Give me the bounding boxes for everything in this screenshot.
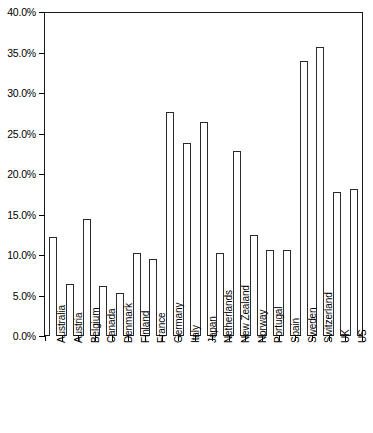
x-axis-category-label: Australia (57, 305, 67, 343)
y-axis-tick-mark (39, 296, 45, 297)
x-label-slot: Austria (62, 343, 79, 433)
x-label-slot: Italy (179, 343, 196, 433)
x-axis-category-label: Switzerland (324, 292, 334, 343)
y-axis-tick-mark (39, 12, 45, 13)
y-axis-labels: 0.0%5.0%10.0%15.0%20.0%25.0%30.0%35.0%40… (0, 0, 44, 433)
y-axis-tick-label: 20.0% (7, 169, 36, 180)
bar-slot (78, 13, 95, 336)
bar (333, 192, 341, 336)
y-axis-tick-mark (39, 215, 45, 216)
x-axis-category-label: Norway (258, 310, 268, 343)
x-label-slot: New Zealand (229, 343, 246, 433)
y-axis-tick-mark (39, 93, 45, 94)
x-axis-category-label: Denmark (124, 303, 134, 343)
bar-slot (312, 13, 329, 336)
bar-slot (212, 13, 229, 336)
x-axis-category-label: New Zealand (241, 285, 251, 343)
bar-slot (162, 13, 179, 336)
y-axis-tick-label: 25.0% (7, 128, 36, 139)
x-axis-category-label: France (157, 312, 167, 343)
y-axis-tick-label: 35.0% (7, 47, 36, 58)
x-axis-category-label: Japan (208, 316, 218, 343)
bar-slot (295, 13, 312, 336)
y-axis-tick-mark (39, 255, 45, 256)
bar (200, 122, 208, 336)
y-axis-tick-label: 5.0% (13, 290, 36, 301)
x-label-slot: Australia (45, 343, 62, 433)
x-axis-category-label: US (358, 329, 368, 343)
bar (183, 143, 191, 336)
bar-slot (262, 13, 279, 336)
x-axis-category-label: Canada (107, 309, 117, 343)
x-axis-category-label: UK (341, 329, 351, 343)
x-axis-tick-mark (45, 336, 46, 341)
y-axis-tick-mark (39, 336, 45, 337)
bar-slot (345, 13, 362, 336)
x-axis-labels: AustraliaAustriaBelgiumCanadaDenmarkFinl… (45, 343, 362, 433)
x-label-slot: Denmark (112, 343, 129, 433)
x-label-slot: Germany (162, 343, 179, 433)
x-label-slot: Canada (95, 343, 112, 433)
y-axis-tick-mark (39, 134, 45, 135)
x-axis-category-label: Belgium (91, 308, 101, 343)
y-axis-tick-mark (39, 53, 45, 54)
x-axis-category-label: Austria (74, 313, 84, 343)
bar-slot (329, 13, 346, 336)
x-label-slot: Sweden (295, 343, 312, 433)
bar-slot (95, 13, 112, 336)
y-axis-tick-label: 15.0% (7, 209, 36, 220)
x-axis-category-label: Netherlands (224, 290, 234, 343)
y-axis-tick-mark (39, 174, 45, 175)
y-axis-tick-label: 10.0% (7, 250, 36, 261)
y-axis-tick-label: 40.0% (7, 7, 36, 18)
x-label-slot: Japan (195, 343, 212, 433)
x-label-slot: Spain (279, 343, 296, 433)
bar-slot (179, 13, 196, 336)
x-axis-category-label: Italy (191, 325, 201, 343)
x-axis-category-label: Germany (174, 303, 184, 343)
y-axis-tick-label: 0.0% (13, 331, 36, 342)
bar-slot (112, 13, 129, 336)
x-label-slot: Norway (245, 343, 262, 433)
bar-slot (145, 13, 162, 336)
x-label-slot: France (145, 343, 162, 433)
bar (300, 61, 308, 336)
x-label-slot: Netherlands (212, 343, 229, 433)
x-label-slot: Belgium (78, 343, 95, 433)
x-label-slot: Switzerland (312, 343, 329, 433)
bar-slot (279, 13, 296, 336)
x-axis-category-label: Spain (291, 318, 301, 343)
x-axis-category-label: Portugal (274, 307, 284, 343)
y-axis-tick-label: 30.0% (7, 88, 36, 99)
bar-chart: 0.0%5.0%10.0%15.0%20.0%25.0%30.0%35.0%40… (0, 0, 373, 433)
x-label-slot: Finland (128, 343, 145, 433)
x-label-slot: Portugal (262, 343, 279, 433)
x-label-slot: UK (329, 343, 346, 433)
x-label-slot: US (345, 343, 362, 433)
bar-slot (128, 13, 145, 336)
bar (350, 189, 358, 336)
bars-container (45, 13, 362, 336)
bar-slot (45, 13, 62, 336)
x-axis-category-label: Sweden (308, 307, 318, 343)
x-axis-category-label: Finland (141, 311, 151, 343)
bar-slot (62, 13, 79, 336)
bar-slot (195, 13, 212, 336)
